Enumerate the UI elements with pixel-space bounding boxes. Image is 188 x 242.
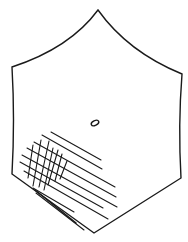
crystal-drawing-canvas: [0, 0, 188, 242]
crystal-diagram: [0, 0, 188, 242]
crystal-outline: [12, 10, 182, 233]
cross-hatch-lines: [28, 140, 67, 190]
central-oval-mark: [90, 119, 99, 127]
